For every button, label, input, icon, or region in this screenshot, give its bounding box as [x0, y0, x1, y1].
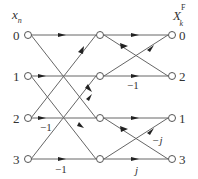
output-label-2: 1 — [179, 112, 186, 125]
output-label-3: 3 — [179, 153, 186, 166]
weight-label: j — [135, 165, 138, 176]
weight-label: −1 — [127, 80, 139, 91]
weight-label: −1 — [40, 122, 52, 133]
input-label-0: 0 — [13, 29, 20, 42]
input-label-1: 1 — [13, 70, 20, 83]
weight-label: −j — [152, 135, 162, 146]
butterfly-diagram — [0, 0, 198, 179]
input-label-3: 3 — [13, 153, 20, 166]
output-label-0: 0 — [179, 29, 186, 42]
output-header: XFk — [173, 6, 189, 28]
input-label-2: 2 — [13, 112, 20, 125]
input-header: xn — [12, 8, 22, 27]
weight-label: −1 — [55, 164, 67, 175]
output-label-1: 2 — [179, 70, 186, 83]
